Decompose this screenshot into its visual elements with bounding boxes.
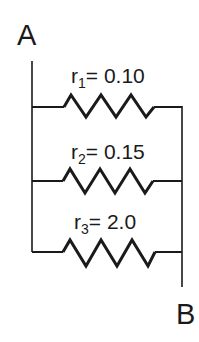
node-a-label: A — [17, 19, 37, 51]
resistor-r1-label: r1= 0.10 — [71, 64, 145, 91]
branch-r2: r2= 0.15 — [32, 140, 182, 193]
resistor-r2-label: r2= 0.15 — [71, 140, 145, 167]
resistor-r3-zigzag-icon — [63, 240, 155, 266]
resistor-r3-label: r3= 2.0 — [74, 210, 136, 237]
branch-r3: r3= 2.0 — [32, 210, 182, 266]
branch-r1: r1= 0.10 — [32, 64, 182, 117]
node-b-label: B — [176, 298, 195, 330]
resistor-r2-zigzag-icon — [63, 169, 153, 193]
resistor-r1-zigzag-icon — [64, 95, 154, 117]
parallel-circuit-diagram: A B r1= 0.10 r2= 0.15 r3= 2.0 — [0, 0, 199, 342]
